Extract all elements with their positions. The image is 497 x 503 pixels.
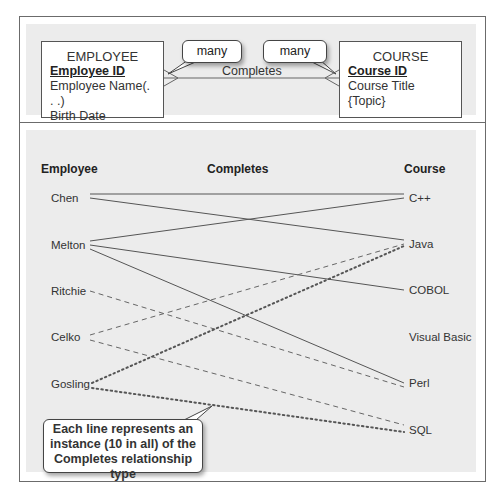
instance-callout: Each line represents an instance (10 in …	[43, 419, 203, 473]
instance-line	[90, 340, 404, 425]
instance-line	[90, 245, 404, 290]
instance-line	[90, 291, 404, 387]
instance-line	[92, 246, 404, 383]
instance-line	[90, 244, 404, 335]
